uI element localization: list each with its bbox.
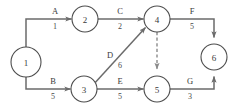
node-4[interactable]: 4 xyxy=(144,6,170,32)
edge-b-duration: 5 xyxy=(51,92,55,101)
edge-a-line xyxy=(26,19,72,47)
node-1-label: 1 xyxy=(24,58,29,68)
node-4-label: 4 xyxy=(155,15,160,25)
edge-g-duration: 3 xyxy=(188,92,192,101)
edge-c[interactable]: C 2 xyxy=(98,6,144,31)
edge-e-label: E xyxy=(117,76,122,86)
edge-c-duration: 2 xyxy=(118,22,122,31)
edge-f[interactable]: F 5 xyxy=(170,6,214,38)
node-6[interactable]: 6 xyxy=(201,44,227,70)
edge-b-label: B xyxy=(50,76,56,86)
edge-a-label: A xyxy=(52,6,59,16)
edge-c-label: C xyxy=(117,6,123,16)
node-1[interactable]: 1 xyxy=(11,47,41,77)
diagram-canvas: A 1 B 5 C 2 D 6 E 5 F xyxy=(0,0,237,109)
edge-d-line xyxy=(96,28,146,83)
edge-b[interactable]: B 5 xyxy=(26,76,71,101)
edge-e[interactable]: E 5 xyxy=(97,76,144,101)
edge-a[interactable]: A 1 xyxy=(26,6,72,47)
edge-a-duration: 1 xyxy=(53,22,57,31)
edge-e-duration: 5 xyxy=(118,92,122,101)
edge-f-label: F xyxy=(190,6,195,16)
network-diagram: A 1 B 5 C 2 D 6 E 5 F xyxy=(0,0,237,109)
edge-b-line xyxy=(26,77,71,89)
node-6-label: 6 xyxy=(212,53,217,63)
node-2-label: 2 xyxy=(83,15,88,25)
node-3[interactable]: 3 xyxy=(71,76,97,102)
edge-g-label: G xyxy=(187,76,193,86)
node-2[interactable]: 2 xyxy=(72,6,98,32)
edge-d[interactable]: D 6 xyxy=(96,28,146,83)
edge-g[interactable]: G 3 xyxy=(170,76,214,101)
node-5[interactable]: 5 xyxy=(144,76,170,102)
node-3-label: 3 xyxy=(82,85,87,95)
node-5-label: 5 xyxy=(155,85,160,95)
edge-d-label: D xyxy=(107,50,113,60)
edge-d-duration: 6 xyxy=(118,61,122,70)
edge-f-duration: 5 xyxy=(190,22,194,31)
